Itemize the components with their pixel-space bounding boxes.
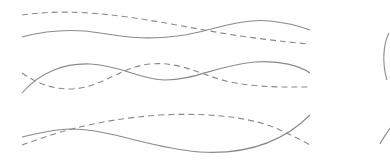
row-1-dashed-curve — [22, 12, 310, 44]
row-2-dashed-curve — [22, 64, 310, 89]
wave-diagram — [0, 0, 390, 163]
circle-arc-upper — [384, 33, 389, 80]
row-2 — [22, 62, 310, 93]
row-3 — [22, 114, 310, 152]
row-1 — [22, 12, 310, 44]
partial-circle — [380, 33, 390, 144]
row-2-solid-curve — [22, 62, 310, 93]
circle-arc-lower — [380, 128, 390, 144]
row-3-solid-curve — [22, 115, 310, 152]
